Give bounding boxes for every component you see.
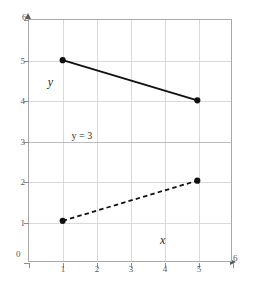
data-point-marker	[60, 218, 66, 224]
x-axis-tick	[29, 263, 30, 268]
y-tick-label: 3	[21, 137, 26, 147]
data-point-marker	[194, 97, 200, 103]
series-dashed-segment	[60, 178, 201, 224]
x-axis-tick	[233, 263, 234, 268]
y-tick-label: 4	[21, 96, 26, 106]
series-layer	[29, 20, 231, 261]
origin-label: 0	[16, 249, 21, 259]
data-point-marker	[60, 57, 66, 63]
chart-figure: 6 0 6 1234512345 y x y = 3	[0, 0, 255, 287]
x-axis-max-label: 6	[233, 253, 238, 263]
data-point-marker	[194, 178, 200, 184]
x-tick-label: 2	[95, 264, 100, 274]
series-line	[63, 181, 198, 221]
y-axis-tick	[24, 263, 29, 264]
y-tick-label: 1	[21, 218, 26, 228]
y-tick-label: 2	[21, 177, 26, 187]
x-tick-label: 3	[129, 264, 134, 274]
series-line	[63, 60, 198, 100]
series-solid-segment	[60, 57, 201, 103]
x-tick-label: 4	[163, 264, 168, 274]
x-tick-label: 5	[197, 264, 202, 274]
x-tick-label: 1	[61, 264, 66, 274]
y-tick-label: 5	[21, 56, 26, 66]
plot-area: 1234512345 y x y = 3	[28, 19, 232, 262]
